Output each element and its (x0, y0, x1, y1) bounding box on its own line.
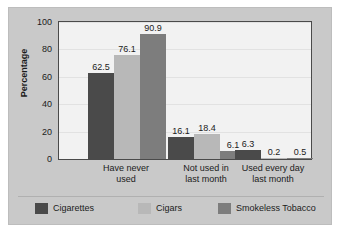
bar (287, 158, 313, 159)
legend-swatch-icon (138, 203, 151, 214)
bar (140, 34, 166, 159)
x-category-label-line: Have never (81, 163, 171, 174)
bar-group: 62.576.190.9 (88, 22, 166, 159)
bar-value-label: 62.5 (84, 62, 118, 72)
bar-value-label: 76.1 (110, 44, 144, 54)
y-tick-label: 100 (37, 17, 52, 27)
y-axis-tick-labels: 100806040200 (23, 22, 55, 159)
x-category-label-line: last month (228, 174, 318, 185)
x-category-label-line: Used every day (228, 163, 318, 174)
chart-legend: CigarettesCigarsSmokeless Tobacco (18, 196, 324, 220)
legend-item[interactable]: Cigarettes (35, 201, 94, 215)
legend-label: Cigars (156, 203, 182, 213)
y-tick-label: 0 (47, 154, 52, 164)
legend-swatch-icon (218, 203, 231, 214)
y-tick-label: 40 (42, 99, 52, 109)
x-category-label-line: used (81, 174, 171, 185)
bar (114, 55, 140, 159)
bar (88, 73, 114, 159)
x-axis-category-labels: Have neverusedNot used inlast monthUsed … (58, 163, 312, 193)
legend-item[interactable]: Smokeless Tobacco (218, 201, 316, 215)
bar-value-label: 18.4 (190, 123, 224, 133)
bar-value-label: 0.5 (283, 147, 317, 157)
bar-group: 6.30.20.5 (235, 22, 313, 159)
x-category-label: Used every daylast month (228, 163, 318, 185)
y-tick-label: 60 (42, 72, 52, 82)
legend-item[interactable]: Cigars (138, 201, 182, 215)
chart-figure: Percentage 100806040200 62.576.190.916.1… (8, 7, 332, 225)
bar-value-label: 90.9 (136, 23, 170, 33)
y-tick-label: 20 (42, 127, 52, 137)
x-category-label: Have neverused (81, 163, 171, 185)
plot-inner: 62.576.190.916.118.46.16.30.20.5 (59, 22, 311, 159)
legend-label: Smokeless Tobacco (236, 203, 316, 213)
plot-rectangle: 62.576.190.916.118.46.16.30.20.5 (58, 21, 312, 160)
bar (168, 137, 194, 159)
y-tick-label: 80 (42, 44, 52, 54)
chart-plot-area: Percentage 100806040200 62.576.190.916.1… (9, 8, 333, 194)
legend-label: Cigarettes (53, 203, 94, 213)
legend-swatch-icon (35, 203, 48, 214)
bar (261, 158, 287, 159)
